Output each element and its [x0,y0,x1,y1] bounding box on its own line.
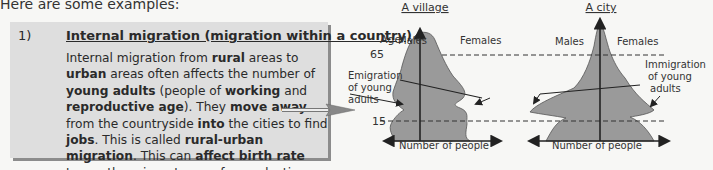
city-annotation-2: of young [648,71,692,82]
city-males-label: Males [555,36,584,47]
city-pyramid: A city Males Females Immigration of youn… [523,1,706,151]
village-pyramid: A village Age 65 15 Males Females Emigra… [348,1,520,151]
village-age-65: 65 [370,48,384,61]
village-annotation-2: of young [348,82,392,93]
village-xlabel: Number of people [399,140,489,151]
population-pyramids-diagram: A village Age 65 15 Males Females Emigra… [0,0,713,170]
city-xlabel: Number of people [552,140,642,151]
city-females-label: Females [617,36,658,47]
village-title: A village [401,1,448,14]
village-females-label: Females [460,35,501,46]
connector-arrow-icon [282,104,355,116]
village-males-label: Males [398,35,427,46]
village-annotation-1: Emigration [348,70,403,81]
village-annotation-3: adults [348,94,379,105]
city-title: A city [586,1,617,14]
city-annotation-1: Immigration [645,59,706,70]
village-age-15: 15 [372,115,386,128]
city-annotation-3: adults [650,83,681,94]
